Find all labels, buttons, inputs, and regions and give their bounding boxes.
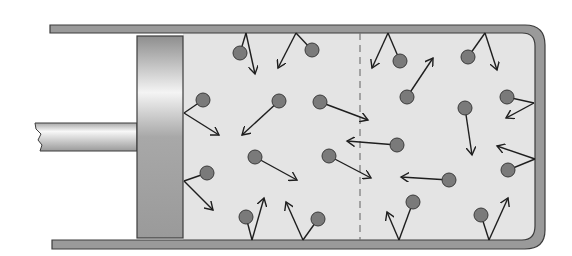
molecule-dot [311,212,325,226]
molecule-dot [461,50,475,64]
molecule-dot [406,195,420,209]
molecule-dot [501,163,515,177]
molecule-dot [442,173,456,187]
piston-cylinder-diagram [0,0,572,256]
piston [137,36,183,238]
molecule-dot [393,54,407,68]
diagram-canvas [0,0,572,256]
molecule-dot [322,149,336,163]
molecule-dot [313,95,327,109]
molecule-dot [196,93,210,107]
molecule-dot [272,94,286,108]
molecule-dot [305,43,319,57]
molecule-dot [233,46,247,60]
molecule-dot [248,150,262,164]
molecule-dot [239,210,253,224]
molecule-dot [200,166,214,180]
molecule-dot [390,138,404,152]
piston-rod [35,123,137,151]
molecule-dot [400,90,414,104]
molecule-dot [474,208,488,222]
molecule-dot [500,90,514,104]
molecule-dot [458,101,472,115]
